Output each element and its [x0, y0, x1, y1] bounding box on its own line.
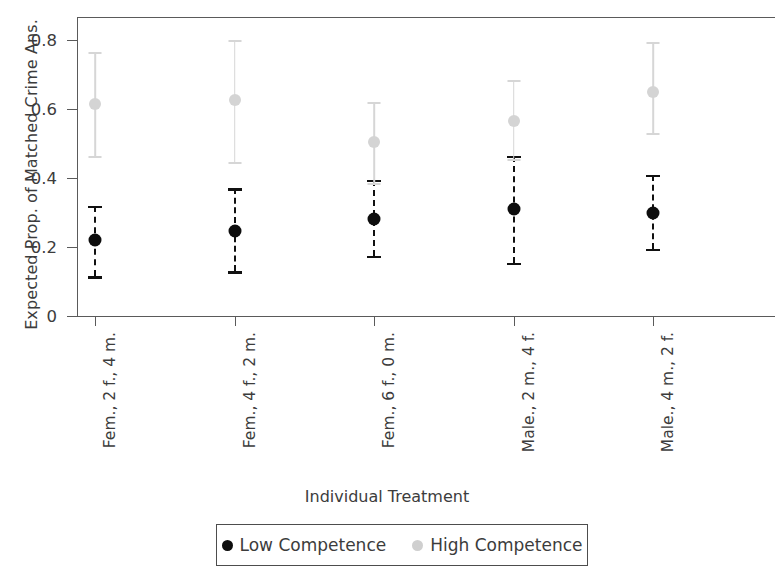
data-point[interactable]: [647, 86, 659, 98]
y-axis-tick: [67, 178, 77, 179]
error-bar-cap: [647, 42, 660, 44]
x-axis-tick-label: Male., 2 m., 4 f.: [520, 332, 538, 452]
error-bar-cap: [646, 249, 660, 251]
x-axis-tick: [374, 317, 375, 326]
legend-item-high-competence[interactable]: High Competence: [412, 535, 582, 555]
data-point[interactable]: [228, 225, 241, 238]
error-bar-cap: [507, 159, 520, 161]
x-axis-tick-label: Fem., 2 f., 4 m.: [101, 332, 119, 448]
y-axis-tick: [67, 316, 77, 317]
data-point[interactable]: [508, 115, 520, 127]
legend-label: High Competence: [430, 535, 582, 555]
x-axis-tick-label: Male., 4 m., 2 f.: [659, 332, 677, 452]
error-bar-cap: [368, 102, 381, 104]
data-point[interactable]: [229, 94, 241, 106]
data-point[interactable]: [507, 203, 520, 216]
data-point[interactable]: [368, 213, 381, 226]
x-axis-tick: [95, 317, 96, 326]
error-bar-cap: [228, 271, 242, 273]
error-bar-cap: [88, 206, 102, 208]
y-axis-tick-label: 0.4: [0, 169, 57, 188]
x-axis-tick: [653, 317, 654, 326]
y-axis-tick-label: 0.8: [0, 31, 57, 50]
error-bar-cap: [228, 40, 241, 42]
legend-item-low-competence[interactable]: Low Competence: [222, 535, 387, 555]
x-axis-tick-label: Fem., 4 f., 2 m.: [241, 332, 259, 448]
x-axis-tick: [514, 317, 515, 326]
y-axis-tick: [67, 40, 77, 41]
y-axis-tick: [67, 247, 77, 248]
error-bar-cap: [646, 175, 660, 177]
data-point[interactable]: [89, 98, 101, 110]
y-axis-tick-label: 0: [0, 307, 57, 326]
error-bar-cap: [88, 276, 102, 278]
error-bar-cap: [368, 183, 381, 185]
chart-legend: Low Competence High Competence: [216, 524, 588, 566]
data-point[interactable]: [368, 136, 380, 148]
error-bar-cap: [367, 256, 381, 258]
error-bar-cap: [507, 80, 520, 82]
x-axis-title: Individual Treatment: [77, 487, 697, 506]
y-axis-tick-label: 0.2: [0, 238, 57, 257]
legend-marker-icon: [412, 540, 423, 551]
chart-figure: Expected Prop. of Matched Crime Ans. 00.…: [0, 0, 775, 566]
error-bar-cap: [89, 156, 102, 158]
error-bar-cap: [507, 263, 521, 265]
x-axis-tick-label: Fem., 6 f., 0 m.: [380, 332, 398, 448]
error-bar-cap: [89, 52, 102, 54]
legend-marker-icon: [222, 540, 233, 551]
error-bar-cap: [228, 188, 242, 190]
y-axis-tick: [67, 109, 77, 110]
x-axis-tick: [235, 317, 236, 326]
data-point[interactable]: [647, 206, 660, 219]
plot-area: [77, 17, 775, 317]
error-bar-cap: [647, 133, 660, 135]
y-axis-tick-label: 0.6: [0, 100, 57, 119]
legend-label: Low Competence: [240, 535, 387, 555]
data-point[interactable]: [89, 234, 102, 247]
error-bar-cap: [228, 162, 241, 164]
